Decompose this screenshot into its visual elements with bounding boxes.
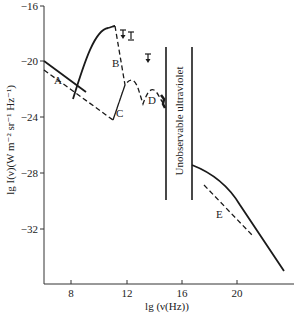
x-tick-label: 16: [177, 287, 189, 299]
label-b: B: [112, 57, 119, 69]
label-c: C: [116, 107, 123, 119]
y-tick-label: −28: [21, 167, 39, 179]
x-tick-label: 8: [68, 287, 74, 299]
upper-limit-icon: [128, 32, 134, 40]
upper-limit-icon: [120, 30, 126, 39]
spectrum-chart: −16 −20 −24 −28 −32 8 12 16 20 lg (ν(Hz)…: [0, 0, 294, 313]
x-tick-label: 12: [122, 287, 133, 299]
upper-limit-icon: [145, 54, 151, 63]
label-d: D: [148, 94, 156, 106]
curve-e-dashed: [204, 185, 252, 235]
uv-label: Unobservable ultraviolet: [173, 66, 185, 175]
y-tick-label: −16: [21, 0, 39, 12]
y-tick-label: −32: [21, 223, 38, 235]
y-ticks: −16 −20 −24 −28 −32: [21, 0, 44, 235]
axes: [44, 6, 294, 284]
label-e: E: [216, 208, 223, 220]
y-axis-title: lg I(ν)(W m⁻² sr⁻¹ Hz⁻¹): [4, 85, 17, 195]
curve-e-solid: [192, 165, 284, 271]
x-axis-title: lg (ν(Hz)): [145, 300, 189, 313]
label-a: A: [54, 74, 62, 86]
upper-limit-markers: [120, 30, 151, 63]
curve-bcd-dashed: [113, 26, 164, 120]
y-tick-label: −24: [21, 111, 39, 123]
x-ticks: 8 12 16 20: [68, 280, 243, 299]
x-tick-label: 20: [232, 287, 244, 299]
y-tick-label: −20: [21, 55, 39, 67]
